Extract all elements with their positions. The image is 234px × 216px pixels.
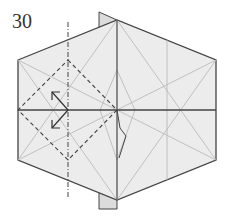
origami-diagram xyxy=(0,0,234,216)
